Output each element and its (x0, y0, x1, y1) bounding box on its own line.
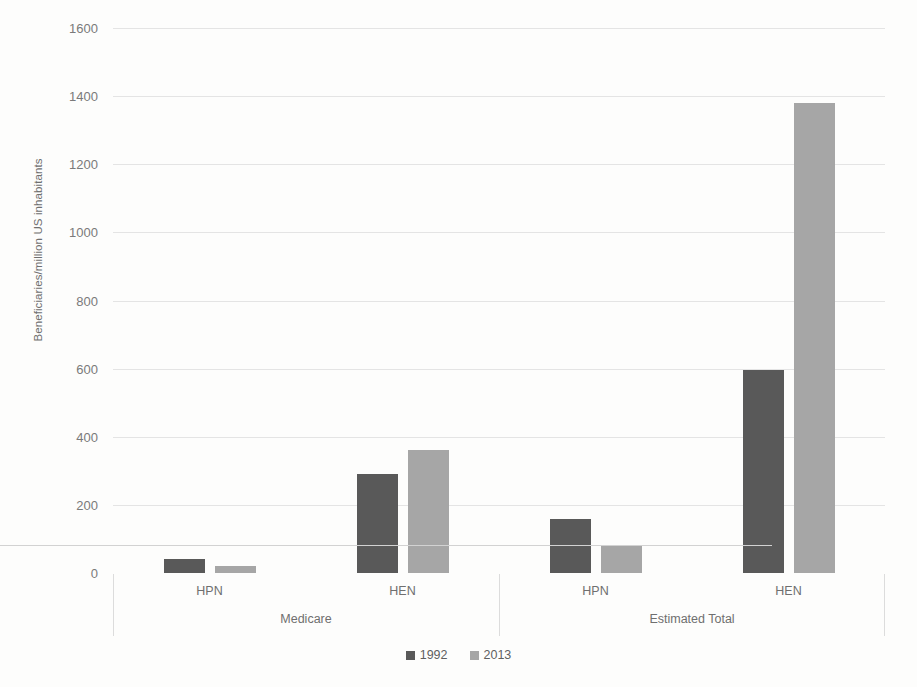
gridline (113, 301, 885, 302)
gridline (113, 28, 885, 29)
bar-2013-medicare---hpn (215, 566, 256, 573)
bar-1992-medicare---hen (357, 474, 398, 573)
gridline (113, 164, 885, 165)
legend-item-1992[interactable]: 1992 (406, 649, 448, 662)
x-group-label: Estimated Total (649, 612, 734, 626)
y-tick-label: 800 (52, 293, 98, 308)
x-sub-label: HEN (775, 584, 801, 598)
legend-label: 1992 (420, 649, 448, 662)
x-group-label: Medicare (280, 612, 331, 626)
plot-area (113, 28, 885, 573)
category-separator (499, 574, 500, 636)
category-separator (884, 574, 885, 636)
bar-1992-estimated-total---hen (743, 370, 784, 573)
bar-2013-estimated-total---hen (794, 103, 835, 573)
bar-1992-medicare---hpn (164, 559, 205, 573)
legend-label: 2013 (484, 649, 512, 662)
x-axis-category-band: HPNHENHPNHENMedicareEstimated Total (113, 574, 885, 636)
y-axis-title: Beneficiaries/million US inhabitants (28, 40, 48, 460)
bar-2013-medicare---hen (408, 450, 449, 573)
chart-figure: Beneficiaries/million US inhabitants 020… (0, 0, 917, 687)
x-sub-label: HPN (582, 584, 608, 598)
legend-item-2013[interactable]: 2013 (470, 649, 512, 662)
gridline (113, 232, 885, 233)
y-tick-label: 200 (52, 497, 98, 512)
legend-swatch-icon (470, 651, 479, 660)
chart-legend: 19922013 (0, 649, 917, 662)
x-sub-label: HEN (389, 584, 415, 598)
y-tick-label: 1200 (52, 157, 98, 172)
bar-2013-estimated-total---hpn (601, 546, 642, 573)
category-separator (113, 574, 114, 636)
y-tick-label: 1000 (52, 225, 98, 240)
y-tick-label: 400 (52, 429, 98, 444)
x-axis-baseline (0, 545, 772, 546)
x-sub-label: HPN (196, 584, 222, 598)
y-axis-tick-labels: 02004006008001000120014001600 (52, 0, 98, 687)
y-tick-label: 1400 (52, 89, 98, 104)
gridline (113, 96, 885, 97)
y-tick-label: 0 (52, 566, 98, 581)
y-tick-label: 1600 (52, 21, 98, 36)
y-tick-label: 600 (52, 361, 98, 376)
legend-swatch-icon (406, 651, 415, 660)
